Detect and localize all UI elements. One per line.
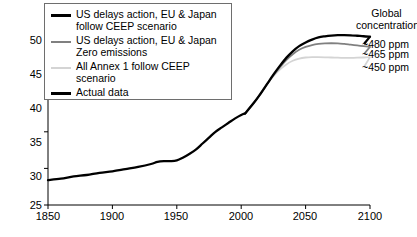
legend-label: Actual data xyxy=(76,87,129,99)
y-tick-label-50: 50 xyxy=(18,35,42,46)
legend-swatch-gray-icon xyxy=(51,41,71,43)
legend-label: US delays action, EU & Japan Zero emissi… xyxy=(76,35,217,58)
legend-swatch-black-icon xyxy=(51,14,71,17)
right-annotation-group: Global concentration xyxy=(356,8,417,31)
ppm-label-465: ~465 ppm xyxy=(362,49,409,60)
series-line xyxy=(245,57,370,113)
x-axis-ticks xyxy=(48,205,370,209)
x-tick-label-2000: 2000 xyxy=(221,211,261,222)
x-tick-label-1900: 1900 xyxy=(92,211,132,222)
global-concentration-title: Global concentration xyxy=(356,8,417,31)
x-tick-label-1950: 1950 xyxy=(156,211,196,222)
legend-label: All Annex 1 follow CEEP scenario xyxy=(76,61,227,84)
legend-item-us-delays-ceep: US delays action, EU & Japan follow CEEP… xyxy=(49,9,227,32)
chart-legend: US delays action, EU & Japan follow CEEP… xyxy=(44,3,232,100)
x-tick-label-2100: 2100 xyxy=(350,211,390,222)
y-tick-label-35: 35 xyxy=(18,137,42,148)
x-tick-label-2050: 2050 xyxy=(285,211,325,222)
legend-swatch-black-icon xyxy=(51,92,71,95)
y-tick-label-30: 30 xyxy=(18,171,42,182)
series-line xyxy=(48,114,245,181)
x-tick-label-1850: 1850 xyxy=(28,211,68,222)
series-line xyxy=(245,43,370,113)
chart-figure: 50 45 40 35 30 25 1850 1900 1950 2000 20… xyxy=(0,0,417,237)
legend-item-actual-data: Actual data xyxy=(49,87,227,99)
legend-swatch-lightgray-icon xyxy=(51,67,71,69)
y-tick-label-40: 40 xyxy=(18,103,42,114)
y-tick-label-45: 45 xyxy=(18,69,42,80)
legend-label: US delays action, EU & Japan follow CEEP… xyxy=(76,9,217,32)
legend-item-us-delays-zero-emissions: US delays action, EU & Japan Zero emissi… xyxy=(49,35,227,58)
legend-item-all-annex1-ceep: All Annex 1 follow CEEP scenario xyxy=(49,61,227,84)
ppm-label-450: ~450 ppm xyxy=(362,62,409,73)
